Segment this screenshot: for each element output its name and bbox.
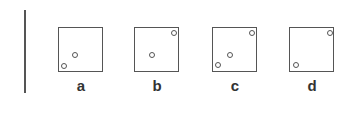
panel-label: b <box>134 77 180 94</box>
circle-marker <box>61 63 67 69</box>
panel-a: a <box>58 27 103 72</box>
panel-b: b <box>134 27 179 72</box>
circle-marker <box>327 30 333 36</box>
circle-marker <box>149 52 155 58</box>
panel-label: a <box>58 77 104 94</box>
vertical-divider-line <box>24 10 26 93</box>
circle-marker <box>249 30 255 36</box>
panel-c: c <box>212 27 257 72</box>
circle-marker <box>171 30 177 36</box>
circle-marker <box>293 62 299 68</box>
panel-d: d <box>289 27 334 72</box>
square-frame <box>58 27 103 72</box>
circle-marker <box>227 52 233 58</box>
panel-label: c <box>212 77 258 94</box>
circle-marker <box>215 62 221 68</box>
panel-label: d <box>289 77 335 94</box>
square-frame <box>212 27 257 72</box>
square-frame <box>134 27 179 72</box>
circle-marker <box>72 52 78 58</box>
square-frame <box>289 27 334 72</box>
